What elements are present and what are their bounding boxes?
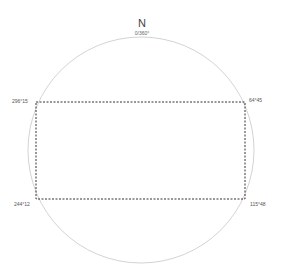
corner-label-bottom-left: 244°12 <box>14 201 30 207</box>
corner-label-top-left: 296°15 <box>12 98 28 104</box>
corner-label-top-right: 64°45 <box>249 97 262 103</box>
orientation-rectangle <box>36 102 245 199</box>
corner-label-bottom-right: 115°48 <box>250 201 266 207</box>
north-bearing-label: 0/360° <box>0 30 284 36</box>
compass-diagram <box>0 0 284 279</box>
compass-circle <box>28 37 254 263</box>
north-label: N <box>0 18 284 29</box>
